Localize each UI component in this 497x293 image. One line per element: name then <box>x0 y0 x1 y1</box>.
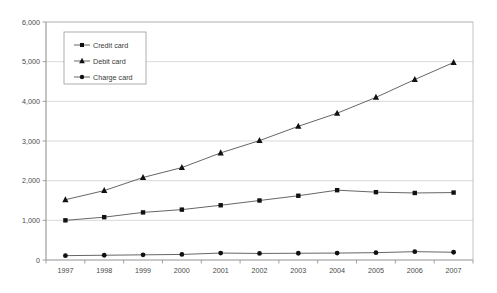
data-point-0-2004 <box>335 188 339 192</box>
data-point-2-1998 <box>102 253 107 258</box>
data-point-2-1999 <box>141 252 146 257</box>
line-chart: 01,0002,0003,0004,0005,0006,000 19971998… <box>0 0 497 293</box>
x-tick-label-1997: 1997 <box>57 266 73 275</box>
series-charge-card <box>63 249 456 258</box>
data-point-0-2002 <box>257 198 261 202</box>
x-axis-ticks: 1997199819992000200120022003200420052006… <box>46 260 473 275</box>
x-tick-label-2002: 2002 <box>252 266 268 275</box>
chart-canvas: 01,0002,0003,0004,0005,0006,000 19971998… <box>0 0 497 293</box>
legend-label-1: Debit card <box>93 57 126 66</box>
y-axis-ticks: 01,0002,0003,0004,0005,0006,000 <box>22 18 46 265</box>
data-point-0-1998 <box>102 215 106 219</box>
data-point-2-2000 <box>179 252 184 257</box>
data-point-0-1999 <box>141 210 145 214</box>
x-tick-label-1998: 1998 <box>96 266 112 275</box>
chart-legend: Credit cardDebit cardCharge card <box>64 32 146 84</box>
legend-label-0: Credit card <box>93 41 128 50</box>
y-tick-label-6000: 6,000 <box>22 18 40 27</box>
series-layer <box>62 59 456 258</box>
x-tick-label-2003: 2003 <box>290 266 306 275</box>
y-tick-label-3000: 3,000 <box>22 137 40 146</box>
data-point-2-2007 <box>451 250 456 255</box>
data-point-2-2004 <box>335 251 340 256</box>
x-tick-label-2001: 2001 <box>213 266 229 275</box>
data-point-2-2006 <box>412 249 417 254</box>
x-tick-label-2000: 2000 <box>174 266 190 275</box>
x-tick-label-2005: 2005 <box>368 266 384 275</box>
y-tick-label-0: 0 <box>36 256 40 265</box>
y-tick-label-5000: 5,000 <box>22 57 40 66</box>
legend-marker-circle-icon <box>80 75 84 79</box>
legend-label-2: Charge card <box>93 73 133 82</box>
x-tick-label-2004: 2004 <box>329 266 345 275</box>
x-tick-label-2007: 2007 <box>446 266 462 275</box>
data-point-2-2003 <box>296 251 301 256</box>
data-point-2-1997 <box>63 253 68 258</box>
y-tick-label-4000: 4,000 <box>22 97 40 106</box>
data-point-0-2006 <box>413 191 417 195</box>
series-line-0 <box>65 190 453 220</box>
data-point-0-2001 <box>218 203 222 207</box>
legend-marker-square-icon <box>80 43 84 47</box>
data-point-0-2003 <box>296 194 300 198</box>
data-point-2-2005 <box>374 250 379 255</box>
y-tick-label-1000: 1,000 <box>22 216 40 225</box>
data-point-2-2002 <box>257 251 262 256</box>
data-point-0-2007 <box>451 190 455 194</box>
x-tick-label-2006: 2006 <box>407 266 423 275</box>
data-point-0-2005 <box>374 190 378 194</box>
data-point-0-2000 <box>180 207 184 211</box>
data-point-2-2001 <box>218 251 223 256</box>
series-credit-card <box>63 188 456 223</box>
data-point-0-1997 <box>63 218 67 222</box>
y-tick-label-2000: 2,000 <box>22 176 40 185</box>
x-tick-label-1999: 1999 <box>135 266 151 275</box>
